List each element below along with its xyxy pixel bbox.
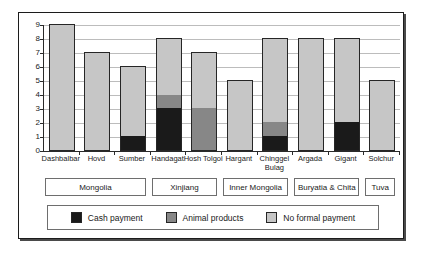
legend-swatch (166, 212, 177, 223)
bar-segment (121, 136, 145, 150)
bar-dashbalbar (49, 24, 75, 151)
legend: Cash paymentAnimal productsNo formal pay… (47, 205, 379, 230)
bar-segment (263, 136, 287, 150)
bar-segment (192, 108, 216, 150)
y-tick-label: 5 (19, 76, 40, 86)
group-box-inner-mongolia: Inner Mongolia (223, 178, 288, 196)
y-tick-label: 0 (19, 146, 40, 156)
y-axis-tick (40, 39, 44, 40)
bar-handagat (156, 38, 182, 151)
bar-hovd (84, 52, 110, 151)
bar-segment (85, 53, 109, 150)
region-groups: MongoliaXinjiangInner MongoliaBuryatia &… (43, 178, 399, 196)
bar-chinggel-bulag (262, 38, 288, 151)
bar-segment (335, 122, 359, 150)
y-axis-tick (40, 67, 44, 68)
y-axis-tick (40, 123, 44, 124)
category-label: Solchur (358, 154, 404, 163)
plot-area (43, 25, 400, 152)
y-axis-tick (40, 109, 44, 110)
y-tick-label: 7 (19, 48, 40, 58)
y-tick-label: 1 (19, 132, 40, 142)
group-box-xinjiang: Xinjiang (152, 178, 217, 196)
bar-hosh-tolgoi (191, 52, 217, 151)
y-tick-label: 6 (19, 62, 40, 72)
y-tick-label: 2 (19, 118, 40, 128)
y-tick-label: 8 (19, 34, 40, 44)
bar-gigant (334, 38, 360, 151)
bar-segment (263, 39, 287, 122)
y-tick-label: 9 (19, 20, 40, 30)
y-axis-tick (40, 95, 44, 96)
x-axis-labels: DashbalbarHovdSumberHandagatHosh TolgoiH… (43, 154, 399, 176)
bar-segment (192, 53, 216, 108)
y-tick-label: 4 (19, 90, 40, 100)
bar-segment (335, 39, 359, 122)
bar-segment (157, 108, 181, 150)
y-axis-tick (40, 81, 44, 82)
bar-argada (298, 38, 324, 151)
bar-solchur (369, 80, 395, 151)
y-axis-tick (40, 151, 44, 152)
bar-sumber (120, 66, 146, 151)
group-box-buryatia-chita: Buryatia & Chita (294, 178, 359, 196)
legend-item: No formal payment (266, 212, 355, 223)
bar-segment (157, 39, 181, 95)
group-box-mongolia: Mongolia (45, 178, 146, 196)
legend-label: Cash payment (88, 213, 143, 223)
y-axis-tick (40, 53, 44, 54)
legend-label: No formal payment (283, 213, 355, 223)
y-tick-label: 3 (19, 104, 40, 114)
bar-segment (121, 67, 145, 136)
legend-swatch (71, 212, 82, 223)
bar-hargant (227, 80, 253, 151)
bar-segment (263, 122, 287, 136)
bar-segment (370, 81, 394, 150)
legend-label: Animal products (183, 213, 244, 223)
legend-item: Animal products (166, 212, 244, 223)
y-axis-tick (40, 25, 44, 26)
bar-segment (157, 95, 181, 109)
y-axis-tick (40, 137, 44, 138)
group-box-tuva: Tuva (365, 178, 395, 196)
gridline (44, 25, 400, 26)
bar-segment (299, 39, 323, 150)
bar-segment (50, 25, 74, 150)
bar-segment (228, 81, 252, 150)
chart-frame: 0123456789 DashbalbarHovdSumberHandagatH… (18, 12, 404, 239)
legend-swatch (266, 212, 277, 223)
figure: 0123456789 DashbalbarHovdSumberHandagatH… (0, 0, 423, 254)
legend-item: Cash payment (71, 212, 143, 223)
